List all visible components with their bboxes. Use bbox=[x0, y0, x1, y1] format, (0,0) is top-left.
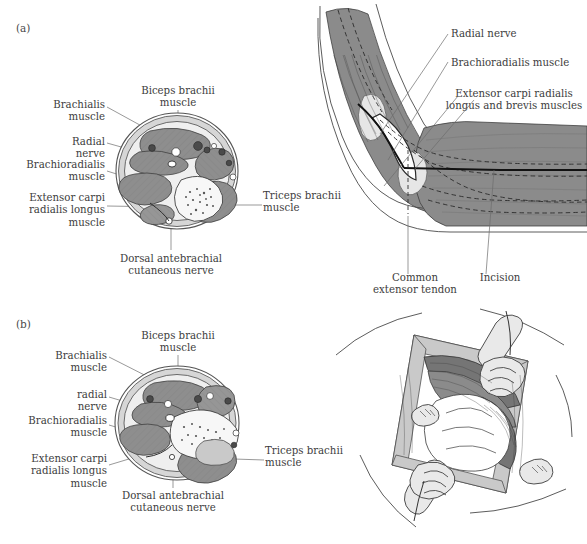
section-a-vessel-dark-5 bbox=[226, 160, 232, 166]
section-a-vessel-light-3 bbox=[230, 174, 236, 180]
lateral-elbow-a-diagram bbox=[318, 0, 587, 305]
section-b-vessel-light-3 bbox=[233, 430, 239, 436]
operative-skin-contour-lower-right bbox=[470, 489, 566, 513]
section-a-radial-nerve bbox=[168, 161, 176, 167]
section-b-vessel-light-2 bbox=[207, 393, 214, 400]
panel-a: (a) Brachialis muscle Radial nerve Brach… bbox=[0, 0, 587, 305]
section-a-vessel-light-2 bbox=[211, 143, 216, 148]
section-b-vessel-dark-3 bbox=[225, 398, 231, 404]
anatomical-figure: (a) Brachialis muscle Radial nerve Brach… bbox=[0, 0, 587, 544]
section-a-vessel-light-1 bbox=[172, 148, 180, 156]
section-b-radial-nerve bbox=[166, 415, 174, 422]
cross-section-b-diagram bbox=[0, 305, 340, 544]
section-b-dorsal-antebrachial-cutaneous-nerve bbox=[169, 454, 174, 459]
operative-skin-contour-right bbox=[556, 375, 572, 437]
section-a-vessel-dark-3 bbox=[204, 147, 210, 153]
operative-retractor-upper bbox=[478, 311, 525, 397]
panel-b: (b) Brachialis muscle radial nerve Brach… bbox=[0, 305, 587, 544]
section-b-vessel-dark-2 bbox=[194, 395, 201, 402]
section-b-vessel-dark-4 bbox=[231, 442, 237, 448]
section-a-vessel-dark-1 bbox=[149, 145, 156, 152]
operative-view-b-diagram bbox=[330, 305, 587, 544]
cross-section-a-diagram bbox=[0, 0, 340, 300]
section-b-vessel-light-1 bbox=[164, 400, 171, 407]
section-b-anconeus-muscle bbox=[196, 439, 235, 465]
section-a-vessel-dark-4 bbox=[219, 149, 225, 155]
lateral-forearm-extensor-mass bbox=[414, 122, 587, 226]
section-b-vessel-dark-1 bbox=[147, 396, 154, 403]
operative-skin-contour-upper-left bbox=[336, 313, 422, 355]
section-a-vessel-dark-2 bbox=[194, 142, 203, 151]
